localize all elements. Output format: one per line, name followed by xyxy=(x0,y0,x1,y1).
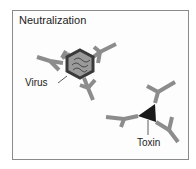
virus-leader-line xyxy=(58,76,67,83)
antibody-icon xyxy=(106,116,138,127)
toxin-icon xyxy=(138,104,156,122)
virus-icon xyxy=(67,50,93,78)
toxin-label: Toxin xyxy=(137,137,160,148)
antibody-icon xyxy=(147,82,175,103)
antibodies-toxin xyxy=(106,82,178,142)
antibody-icon xyxy=(92,44,116,63)
antibody-icon xyxy=(37,57,63,70)
virus-label: Virus xyxy=(25,77,48,88)
antibody-icon xyxy=(80,78,95,100)
